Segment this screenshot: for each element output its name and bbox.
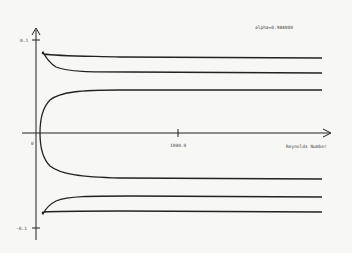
y-tick-label-neg-0.1: -0.1: [16, 226, 27, 231]
y-tick-label-0.1: 0.1: [20, 38, 28, 43]
x-axis: 0 1000.0 Reynolds Number: [22, 129, 331, 149]
x-tick-label-1000: 1000.0: [170, 143, 187, 148]
x-axis-label: Reynolds Number: [286, 144, 327, 149]
x-tick-label-0: 0: [31, 141, 34, 146]
curve-branch-4: [42, 196, 322, 214]
curve-branch-2: [40, 90, 322, 179]
curve-branch-1: [42, 52, 322, 73]
chart: 0.1 -0.1 0 1000.0 Reynolds Number alpha=…: [0, 0, 352, 253]
alpha-annotation: alpha=0.984000: [255, 25, 293, 30]
y-axis: 0.1 -0.1: [16, 28, 40, 240]
